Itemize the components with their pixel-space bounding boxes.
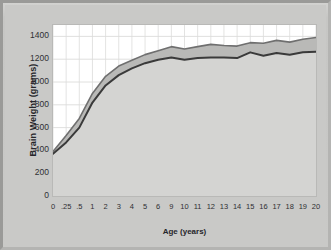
x-tick-label: 20	[312, 203, 320, 211]
x-axis-title: Age (years)	[52, 227, 317, 236]
chart-svg	[53, 25, 316, 196]
x-axis-tick-labels: 0.25.512345691011121314151617181920	[52, 203, 317, 217]
x-tick-label: 17	[272, 203, 280, 211]
plot-area	[52, 24, 317, 197]
x-tick-label: 5	[143, 203, 147, 211]
x-tick-label: 9	[169, 203, 173, 211]
x-tick-label: 10	[180, 203, 188, 211]
y-axis-title: Brain Weight (grams)	[28, 35, 38, 185]
x-tick-label: 18	[286, 203, 294, 211]
y-axis-title-wrap: Brain Weight (grams)	[11, 45, 27, 175]
x-tick-label: 0	[51, 203, 55, 211]
x-tick-label: 12	[207, 203, 215, 211]
chart-screenshot: 0200400600800100012001400 Brain Weight (…	[0, 0, 331, 250]
x-tick-label: 16	[259, 203, 267, 211]
x-tick-label: 14	[233, 203, 241, 211]
x-tick-label: 13	[220, 203, 228, 211]
x-tick-label: 4	[130, 203, 134, 211]
x-tick-label: 2	[104, 203, 108, 211]
x-tick-label: 11	[194, 203, 202, 211]
x-tick-label: 19	[299, 203, 307, 211]
x-tick-label: 3	[117, 203, 121, 211]
y-tick-label: 0	[9, 191, 49, 200]
x-tick-label: .25	[61, 203, 71, 211]
x-tick-label: 1	[90, 203, 94, 211]
x-tick-label: .5	[76, 203, 82, 211]
figure-panel: 0200400600800100012001400 Brain Weight (…	[5, 5, 326, 245]
x-tick-label: 15	[246, 203, 254, 211]
x-tick-label: 6	[156, 203, 160, 211]
